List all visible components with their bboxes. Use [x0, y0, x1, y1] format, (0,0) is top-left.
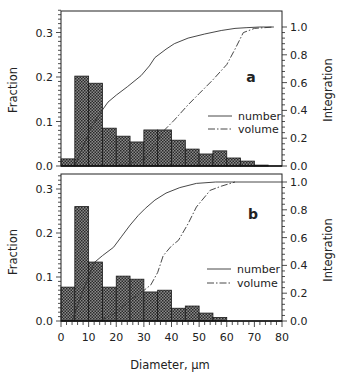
- right-y-axis: 0.00.20.40.60.81.0: [282, 176, 308, 328]
- y-tick-label: 0.2: [36, 71, 54, 84]
- y2-tick-label: 0.8: [290, 49, 308, 62]
- y-tick-label: 0.3: [36, 27, 54, 40]
- y2-tick-label: 0.6: [290, 77, 308, 90]
- y2-tick-label: 0.8: [290, 204, 308, 217]
- histogram-bar: [199, 154, 213, 166]
- histogram-bar: [75, 207, 89, 321]
- histogram-bar: [89, 83, 103, 166]
- histogram-bar: [241, 161, 255, 166]
- histogram-bar: [116, 276, 130, 321]
- chart-figure: 0.00.10.20.30.00.20.40.60.81.0 0.00.10.2…: [0, 0, 342, 384]
- right-y-axis: 0.00.20.40.60.81.0: [282, 21, 308, 173]
- y-tick-label: 0.0: [36, 160, 54, 173]
- histogram-bar: [172, 308, 186, 321]
- histogram-bar: [102, 287, 116, 321]
- y2-tick-label: 0.0: [290, 160, 308, 173]
- y-tick-label: 0.1: [36, 116, 54, 129]
- histogram-bar: [158, 290, 172, 321]
- y2-tick-label: 0.0: [290, 315, 308, 328]
- chart-svg: 0.00.10.20.30.00.20.40.60.81.0 0.00.10.2…: [0, 0, 342, 384]
- y-tick-label: 0.2: [36, 227, 54, 240]
- panel-label-b: b: [248, 206, 258, 222]
- panel-label-a: a: [246, 69, 255, 85]
- x-tick-label: 70: [247, 331, 261, 344]
- legend-number-label: number: [238, 110, 281, 123]
- legend-a: number volume: [208, 110, 281, 136]
- x-tick-label: 30: [137, 331, 151, 344]
- x-tick-label: 10: [82, 331, 96, 344]
- y2-axis-title-b: Integration: [321, 218, 335, 281]
- legend-volume-label: volume: [238, 123, 279, 136]
- histogram-bar: [75, 76, 89, 166]
- x-axis: 01020304050607080: [58, 321, 290, 344]
- y2-tick-label: 1.0: [290, 21, 308, 34]
- histogram-bar: [227, 158, 241, 166]
- y2-tick-label: 0.4: [290, 259, 308, 272]
- histogram-bar: [130, 279, 144, 321]
- x-tick-label: 60: [220, 331, 234, 344]
- histogram-bar: [185, 149, 199, 166]
- x-tick-label: 50: [192, 331, 206, 344]
- y-tick-label: 0.1: [36, 271, 54, 284]
- histogram-bar: [116, 136, 130, 166]
- y-axis-title-a: Fraction: [6, 67, 20, 113]
- y2-tick-label: 0.2: [290, 132, 308, 145]
- histogram-bar: [185, 306, 199, 321]
- left-y-axis: 0.00.10.20.3: [36, 176, 62, 328]
- x-axis-title: Diameter, µm: [130, 358, 210, 372]
- y2-tick-label: 0.2: [290, 287, 308, 300]
- x-tick-label: 0: [58, 331, 65, 344]
- legend-b: number volume: [207, 263, 280, 290]
- histogram-bar: [144, 292, 158, 321]
- x-tick-label: 20: [109, 331, 123, 344]
- histogram-bars: [61, 207, 227, 321]
- histogram-bar: [199, 313, 213, 321]
- histogram-bar: [213, 151, 227, 166]
- y2-tick-label: 1.0: [290, 176, 308, 189]
- histogram-bar: [61, 287, 75, 321]
- x-tick-label: 80: [275, 331, 289, 344]
- histogram-bar: [102, 128, 116, 166]
- x-tick-label: 40: [165, 331, 179, 344]
- legend-number-label: number: [237, 263, 280, 276]
- left-y-axis: 0.00.10.20.3: [36, 10, 62, 173]
- y-tick-label: 0.3: [36, 183, 54, 196]
- y-tick-label: 0.0: [36, 315, 54, 328]
- y-axis-title-b: Fraction: [6, 229, 20, 275]
- histogram-bar: [172, 140, 186, 166]
- panel-b: 0.00.10.20.30.00.20.40.60.81.00102030405…: [36, 174, 308, 344]
- histogram-bar: [61, 159, 75, 166]
- y2-tick-label: 0.4: [290, 104, 308, 117]
- y2-axis-title-a: Integration: [321, 58, 335, 121]
- histogram-bar: [144, 130, 158, 166]
- y2-tick-label: 0.6: [290, 232, 308, 245]
- histogram-bar: [158, 130, 172, 166]
- legend-volume-label: volume: [237, 277, 278, 290]
- panel-a: 0.00.10.20.30.00.20.40.60.81.0: [36, 10, 308, 173]
